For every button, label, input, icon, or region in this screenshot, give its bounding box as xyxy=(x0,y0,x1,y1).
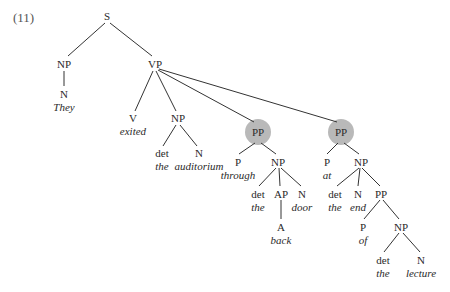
word-end: end xyxy=(350,201,366,213)
word-at: at xyxy=(323,169,333,181)
node-ap: AP xyxy=(274,188,288,200)
word-exited: exited xyxy=(120,125,147,137)
word-they: They xyxy=(53,101,75,113)
node-np-subject: NP xyxy=(57,58,71,70)
node-p-of: P xyxy=(360,221,366,233)
word-the-4: the xyxy=(376,267,390,279)
node-det-3: det xyxy=(328,188,341,200)
node-n-lecture: N xyxy=(417,254,425,266)
node-n-subject: N xyxy=(60,88,68,100)
syntax-tree-diagram: (11) S NP VP N They V exited NP det the … xyxy=(0,0,450,292)
word-the-2: the xyxy=(251,201,265,213)
node-det-4: det xyxy=(376,254,389,266)
node-pp-at: PP xyxy=(335,126,347,138)
node-np-object: NP xyxy=(171,112,185,124)
node-a: A xyxy=(277,221,285,233)
word-door: door xyxy=(292,201,314,213)
word-auditorium: auditorium xyxy=(175,160,224,172)
node-p-through: P xyxy=(235,156,241,168)
node-pp-of: PP xyxy=(375,188,387,200)
node-n-object: N xyxy=(195,147,203,159)
node-n-door: N xyxy=(298,188,306,200)
word-through: through xyxy=(221,169,256,181)
node-p-at: P xyxy=(324,156,330,168)
node-n-end: N xyxy=(354,188,362,200)
tree-edges xyxy=(64,23,420,252)
node-np-at: NP xyxy=(354,156,368,168)
node-s: S xyxy=(104,10,110,22)
node-v: V xyxy=(129,112,137,124)
node-pp-through: PP xyxy=(252,126,264,138)
node-det-2: det xyxy=(251,188,264,200)
word-of: of xyxy=(359,234,370,246)
word-back: back xyxy=(271,234,293,246)
node-det-1: det xyxy=(155,147,168,159)
example-number: (11) xyxy=(13,10,34,25)
word-the-3: the xyxy=(328,201,342,213)
word-lecture: lecture xyxy=(406,267,436,279)
node-vp: VP xyxy=(148,58,162,70)
node-np-of: NP xyxy=(394,221,408,233)
word-the-1: the xyxy=(155,160,169,172)
node-np-through: NP xyxy=(271,156,285,168)
